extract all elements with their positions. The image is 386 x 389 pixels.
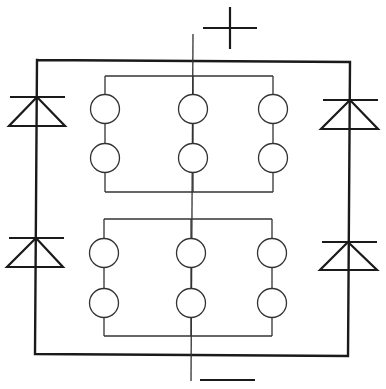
cell-banks [90,76,288,336]
cell-circle-icon [258,239,287,268]
lower-bank [90,219,287,336]
cell-circle-icon [259,144,288,173]
cell-circle-icon [91,95,120,124]
cell-circle-icon [179,95,208,124]
cell-circle-icon [90,289,119,318]
cell-circle-icon [177,289,206,318]
upper-bank [91,76,288,192]
terminals [200,7,257,380]
cell-circle-icon [177,239,206,268]
plus-icon [203,7,257,49]
cell-circle-icon [258,289,287,318]
cell-circle-icon [91,144,120,173]
cell-circle-icon [259,95,288,124]
circuit-diagram [0,0,386,389]
cell-circle-icon [90,239,119,268]
cell-circle-icon [179,144,208,173]
